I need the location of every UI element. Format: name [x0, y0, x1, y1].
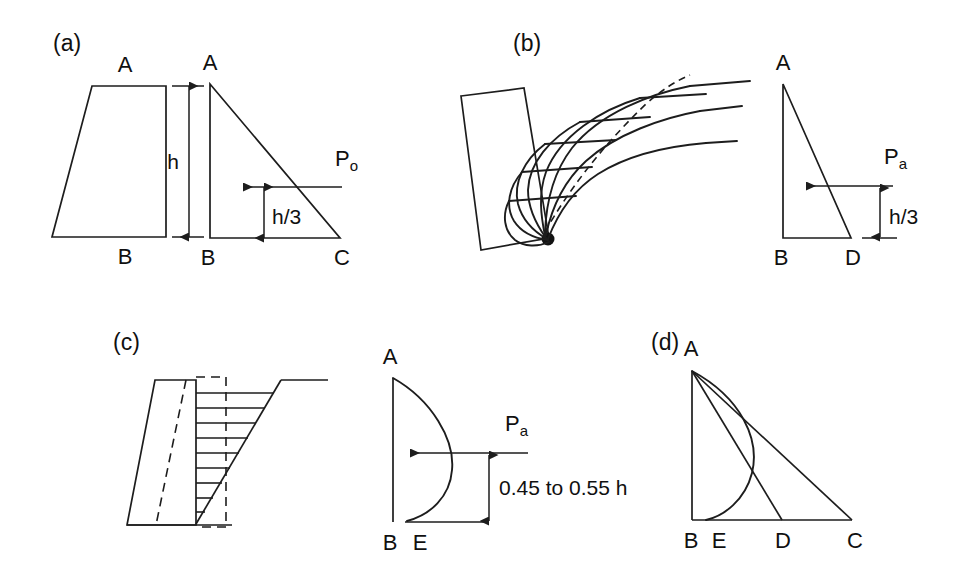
panel-a: (a) A B h A B C Po: [52, 30, 358, 270]
panel-a-third-height-dimension: h/3: [264, 187, 301, 238]
panel-c: (c): [113, 329, 627, 555]
slip-line-tail-2: [700, 106, 742, 111]
panel-c-wall: [127, 380, 196, 525]
panel-a-label-C: C: [334, 245, 350, 270]
wall-outline: [127, 380, 196, 525]
panel-b-third-height-dimension: h/3: [862, 188, 918, 238]
panel-a-label: (a): [53, 30, 81, 56]
force-label-Pa: Pa: [505, 411, 529, 439]
force-label-Po: Po: [335, 146, 358, 174]
panel-d-label: (d): [651, 329, 679, 355]
panel-d-label-B: B: [684, 528, 699, 553]
panel-d-label-C: C: [847, 528, 863, 553]
failure-surface-dashed: [545, 75, 690, 232]
earth-pressure-diagram: (a) A B h A B C Po: [0, 0, 968, 574]
panel-b-label-B: B: [774, 245, 789, 270]
line-AD-active: [692, 371, 782, 520]
panel-a-label-B: B: [201, 245, 216, 270]
slip-line-tail-3: [690, 81, 750, 86]
panel-b: (b): [461, 30, 918, 270]
dim-label-h3: h/3: [889, 205, 918, 228]
slip-line-tail-4: [640, 94, 706, 98]
panel-c-label-A: A: [383, 344, 398, 369]
panel-d-label-D: D: [775, 528, 791, 553]
panel-a-height-dimension: h: [167, 86, 204, 237]
boundary-rectangle-dashed: [196, 377, 226, 527]
panel-a-wall-label-B: B: [118, 244, 133, 269]
panel-a-label-A: A: [203, 50, 218, 75]
panel-d-label-A: A: [684, 336, 699, 361]
force-label-Pa: Pa: [884, 144, 908, 172]
triangle-ABD: [783, 84, 851, 238]
panel-b-label: (b): [513, 30, 541, 56]
panel-b-wall: [461, 88, 555, 250]
slip-line-2: [546, 111, 700, 235]
panel-a-wall-label-A: A: [118, 52, 133, 77]
slip-line-tail-6: [545, 140, 616, 144]
panel-b-pressure-triangle: [783, 84, 851, 238]
panel-c-label-B: B: [383, 530, 398, 555]
panel-c-resultant-force: Pa: [410, 411, 529, 453]
dim-label-h3: h/3: [272, 205, 301, 228]
failure-plane: [196, 380, 281, 524]
bulged-pressure-curve-AE: [393, 378, 452, 521]
slip-line-tail-1: [706, 141, 737, 143]
panel-c-dashed-boundary: [196, 377, 226, 527]
panel-c-label: (c): [113, 329, 140, 355]
panel-b-slip-line-fan: [505, 75, 750, 246]
line-AC-at-rest: [692, 371, 852, 520]
wall-trapezoid-outline: [52, 86, 166, 237]
panel-c-label-E: E: [413, 530, 428, 555]
wall-deflected-dashed: [156, 380, 186, 525]
slip-line-tail-5: [580, 117, 650, 122]
panel-d: (d) A B E D C: [651, 329, 863, 553]
panel-c-pressure-curve: [393, 378, 486, 522]
panel-b-label-A: A: [776, 50, 791, 75]
figure-canvas: (a) A B h A B C Po: [0, 0, 968, 574]
curve-AE-bulged: [692, 371, 754, 520]
panel-d-label-E: E: [712, 528, 727, 553]
dim-label-bulge-height: 0.45 to 0.55 h: [499, 476, 627, 499]
panel-a-resultant-force: Po: [243, 146, 358, 187]
panel-c-bulge-height-dimension: 0.45 to 0.55 h: [489, 455, 627, 521]
panel-b-resultant-force: Pa: [806, 144, 908, 186]
panel-b-label-D: D: [845, 245, 861, 270]
dim-label-h: h: [167, 150, 179, 173]
panel-a-wall: [52, 86, 166, 237]
slip-line-3: [545, 86, 690, 233]
panel-c-failure-wedge: [196, 380, 281, 524]
panel-d-superimposed-diagram: [692, 371, 852, 520]
